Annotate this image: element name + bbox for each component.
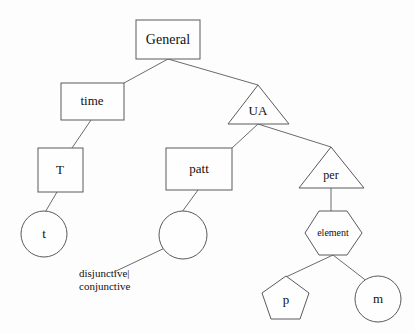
node-t-upper-label: T (56, 162, 64, 177)
node-m[interactable]: m (355, 276, 401, 322)
tree-diagram: General time UA T patt per (0, 0, 415, 333)
edge-element-to-m (333, 255, 368, 282)
node-m-label: m (373, 291, 383, 306)
annotation-disjunctive-conjunctive: disjunctive| conjunctive (79, 267, 130, 292)
edge-time-to-t (72, 120, 91, 148)
node-t-lower-label: t (42, 226, 46, 241)
node-t-lower[interactable]: t (21, 211, 67, 257)
node-element[interactable]: element (305, 211, 362, 255)
edge-element-to-p (286, 255, 333, 277)
node-patt[interactable]: patt (166, 148, 232, 190)
node-time[interactable]: time (61, 83, 124, 120)
edge-ua-to-per (258, 124, 331, 147)
node-time-label: time (80, 93, 103, 108)
node-ua[interactable]: UA (228, 85, 289, 124)
node-empty-circle-shape (159, 211, 207, 259)
edge-general-to-ua (168, 59, 258, 85)
diagram-canvas: General time UA T patt per (0, 0, 415, 333)
node-patt-label: patt (189, 161, 209, 176)
node-element-label: element (317, 227, 349, 238)
node-t-upper[interactable]: T (38, 148, 83, 192)
node-per[interactable]: per (299, 147, 364, 188)
node-general[interactable]: General (136, 20, 200, 59)
node-ua-label: UA (249, 103, 268, 118)
edge-ua-to-patt (232, 124, 258, 148)
annotation-line-2: conjunctive (79, 280, 130, 292)
node-p[interactable]: p (262, 276, 309, 319)
node-p-label: p (283, 292, 290, 307)
annotation-line-1: disjunctive| (79, 267, 129, 279)
node-general-label: General (146, 32, 190, 47)
node-per-label: per (323, 168, 338, 182)
edge-general-to-time (124, 59, 168, 83)
node-empty-circle[interactable] (159, 211, 207, 259)
